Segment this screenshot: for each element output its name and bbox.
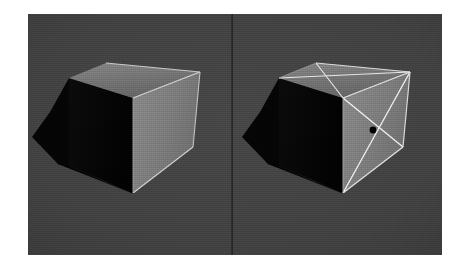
figure-stage — [0, 0, 464, 270]
center-point-dot — [370, 127, 377, 134]
panel-divider — [231, 14, 233, 255]
cube-scene-svg — [28, 14, 442, 255]
render-figure — [28, 14, 442, 255]
